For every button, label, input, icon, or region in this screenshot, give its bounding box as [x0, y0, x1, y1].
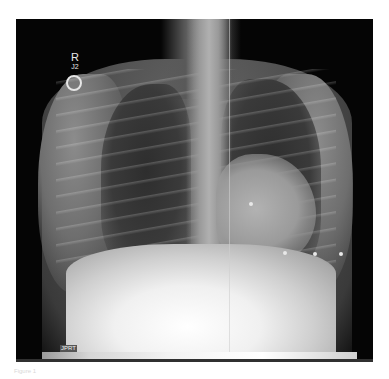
frame-bottom-border	[16, 359, 373, 362]
strip-label: JPRT	[60, 345, 77, 352]
abdomen-diaphragm	[66, 244, 336, 362]
side-marker-sub: J2	[65, 62, 85, 72]
calibration-strip	[42, 352, 357, 359]
ecg-electrode	[339, 252, 343, 256]
xray-image: R J2 JPRT	[16, 19, 373, 362]
ecg-electrode	[313, 252, 317, 256]
ring-marker-icon	[66, 75, 82, 91]
figure-caption: Figure 1	[14, 368, 36, 374]
ecg-electrode	[249, 202, 253, 206]
side-marker-letter: R	[65, 52, 85, 62]
ecg-electrode	[283, 251, 287, 255]
ecg-lead-wire	[229, 19, 230, 362]
side-marker: R J2	[65, 52, 85, 72]
